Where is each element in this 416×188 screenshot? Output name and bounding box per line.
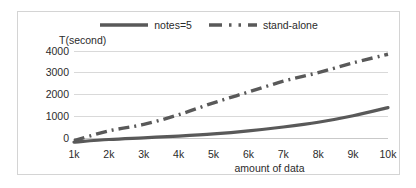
series-line-stand-alone	[74, 54, 388, 140]
x-tick-label-4k: 4k	[173, 149, 184, 160]
x-tick-label-6k: 6k	[243, 149, 254, 160]
x-tick-label-2k: 2k	[103, 149, 114, 160]
series-line-notes-5	[74, 108, 388, 143]
legend-label-notes-5: notes=5	[154, 20, 192, 31]
x-tick-label-9k: 9k	[348, 149, 359, 160]
x-tick-label-5k: 5k	[208, 149, 219, 160]
legend-item-stand-alone: stand-alone	[208, 20, 318, 31]
series-plot	[74, 51, 388, 146]
legend-item-notes-5: notes=5	[99, 20, 192, 31]
x-tick-label-8k: 8k	[313, 149, 324, 160]
x-axis-ticks: 1k 2k 3k 4k 5k 6k 7k 8k 9k 10k	[74, 149, 388, 163]
x-tick-label-7k: 7k	[278, 149, 289, 160]
dash-dot-line-swatch-icon	[208, 20, 258, 30]
x-axis-title: amount of data	[18, 162, 399, 174]
x-tick-label-10k: 10k	[380, 149, 397, 160]
plot-area: 4000 3000 2000 1000 0	[74, 51, 388, 146]
y-tick-label-3000: 3000	[46, 67, 69, 78]
x-tick-label-1k: 1k	[68, 149, 79, 160]
y-tick-label-4000: 4000	[46, 46, 69, 57]
solid-line-swatch-icon	[99, 20, 149, 30]
y-tick-label-0: 0	[63, 133, 69, 144]
y-tick-label-2000: 2000	[46, 89, 69, 100]
y-tick-label-1000: 1000	[46, 111, 69, 122]
chart-container: notes=5 stand-alone T(second) 4000 3000 …	[17, 11, 400, 175]
chart-legend: notes=5 stand-alone	[18, 20, 399, 31]
legend-label-stand-alone: stand-alone	[263, 20, 318, 31]
x-tick-label-3k: 3k	[138, 149, 149, 160]
